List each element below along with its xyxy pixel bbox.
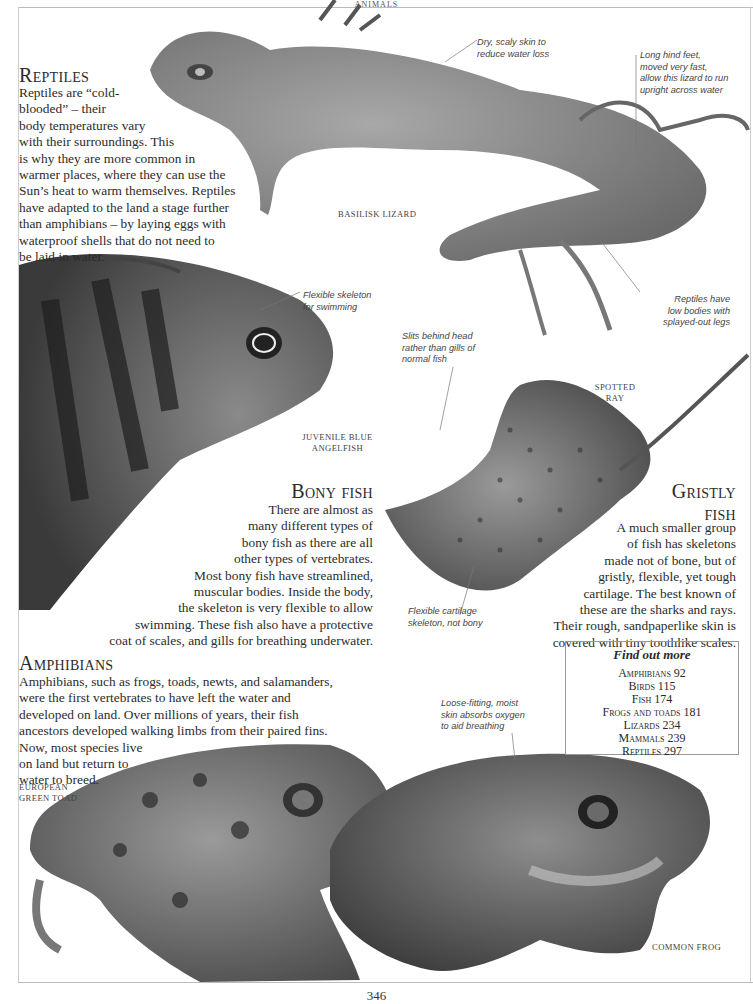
text-line: than amphibians – by laying eggs with: [19, 216, 279, 232]
caption-line: rather than gills of: [402, 343, 475, 355]
caption-line: reduce water loss: [477, 49, 549, 61]
caption-line: skeleton, not bony: [408, 618, 483, 630]
text-line: bony fish as there are all: [60, 535, 373, 551]
text-line: were the first vertebrates to have left …: [19, 690, 379, 706]
caption-line: moved very fast,: [640, 62, 728, 74]
text-line: is why they are more common in: [19, 151, 279, 167]
basilisk-lizard-label: BASILISK LIZARD: [338, 209, 416, 220]
text-line: made not of bone, but of: [480, 553, 736, 569]
label-line: ANGELFISH: [290, 443, 385, 454]
caption-cartilage: Flexible cartilage skeleton, not bony: [408, 606, 483, 629]
caption-scaly-skin: Dry, scaly skin to reduce water loss: [477, 37, 549, 60]
page-number: 346: [0, 988, 753, 1004]
caption-line: for swimming: [303, 302, 371, 314]
caption-line: Slits behind head: [402, 331, 475, 343]
caption-line: to aid breathing: [441, 721, 525, 733]
angelfish-label: JUVENILE BLUE ANGELFISH: [290, 432, 385, 454]
find-out-more-box: Find out more Amphibians 92 Birds 115 Fi…: [565, 641, 739, 755]
label-line: SPOTTED: [585, 382, 645, 393]
text-line: Sun’s heat to warm themselves. Reptiles: [19, 183, 279, 199]
amphibians-body: Amphibians, such as frogs, toads, newts,…: [19, 674, 379, 789]
bony-fish-body: There are almost as many different types…: [60, 502, 373, 650]
text-line: other types of vertebrates.: [60, 551, 373, 567]
text-line: waterproof shells that do not need to: [19, 233, 279, 249]
text-line: the skeleton is very flexible to allow: [60, 600, 373, 616]
caption-line: Long hind feet,: [640, 50, 728, 62]
bony-fish-heading: Bony fish: [200, 480, 373, 502]
text-line: coat of scales, and gills for breathing …: [60, 633, 373, 649]
caption-line: Flexible skeleton: [303, 290, 371, 302]
text-line: Most bony fish have streamlined,: [60, 568, 373, 584]
label-line: GREEN TOAD: [19, 793, 77, 804]
caption-line: skin absorbs oxygen: [441, 710, 525, 722]
text-line: Amphibians, such as frogs, toads, newts,…: [19, 674, 379, 690]
caption-slits: Slits behind head rather than gills of n…: [402, 331, 475, 366]
label-line: RAY: [585, 393, 645, 404]
gristly-fish-body: A much smaller group of fish has skeleto…: [480, 520, 736, 651]
text-line: ancestors developed walking limbs from t…: [19, 723, 379, 739]
caption-line: upright across water: [640, 85, 728, 97]
european-green-toad-label: EUROPEAN GREEN TOAD: [19, 782, 77, 804]
text-line: with their surroundings. This: [19, 134, 279, 150]
amphibians-heading: Amphibians: [19, 652, 113, 674]
text-line: warmer places, where they can use the: [19, 167, 279, 183]
text-line: swimming. These fish also have a protect…: [60, 617, 373, 633]
caption-line: Reptiles have: [620, 294, 730, 306]
reptiles-heading: Reptiles: [19, 64, 89, 86]
text-line: on land but return to: [19, 756, 379, 772]
common-frog-image: [330, 754, 710, 971]
caption-line: normal fish: [402, 354, 475, 366]
find-out-more-title: Find out more: [566, 647, 738, 663]
text-line: A much smaller group: [480, 520, 736, 536]
text-line: Their rough, sandpaperlike skin is: [480, 618, 736, 634]
label-line: EUROPEAN: [19, 782, 77, 793]
caption-splayed-legs: Reptiles have low bodies with splayed-ou…: [620, 294, 730, 329]
caption-line: Flexible cartilage: [408, 606, 483, 618]
text-line: have adapted to the land a stage further: [19, 200, 279, 216]
caption-line: allow this lizard to run: [640, 73, 728, 85]
caption-line: Dry, scaly skin to: [477, 37, 549, 49]
text-line: these are the sharks and rays.: [480, 602, 736, 618]
caption-hind-feet: Long hind feet, moved very fast, allow t…: [640, 50, 728, 96]
spotted-ray-label: SPOTTED RAY: [585, 382, 645, 404]
text-line: be laid in water.: [19, 249, 279, 265]
caption-moist-skin: Loose-fitting, moist skin absorbs oxygen…: [441, 698, 525, 733]
text-line: many different types of: [60, 518, 373, 534]
caption-line: splayed-out legs: [620, 317, 730, 329]
heading-line: Gristly: [600, 480, 736, 502]
caption-flexible-skeleton: Flexible skeleton for swimming: [303, 290, 371, 313]
common-frog-label: COMMON FROG: [652, 942, 721, 953]
text-line: body temperatures vary: [19, 118, 279, 134]
text-line: There are almost as: [60, 502, 373, 518]
text-line: Reptiles are “cold-: [19, 85, 279, 101]
leader-line-slits: [440, 367, 453, 430]
gristly-fish-heading: Gristly fish: [600, 480, 736, 524]
leader-line-legs: [600, 240, 640, 292]
caption-line: Loose-fitting, moist: [441, 698, 525, 710]
text-line: gristly, flexible, yet tough: [480, 569, 736, 585]
text-line: developed on land. Over millions of year…: [19, 707, 379, 723]
text-line: cartilage. The best known of: [480, 586, 736, 602]
text-line: blooded” – their: [19, 101, 279, 117]
text-line: of fish has skeletons: [480, 536, 736, 552]
label-line: JUVENILE BLUE: [290, 432, 385, 443]
text-line: Now, most species live: [19, 740, 379, 756]
text-line: muscular bodies. Inside the body,: [60, 584, 373, 600]
caption-line: low bodies with: [620, 306, 730, 318]
cross-reference-link[interactable]: Reptiles 297: [566, 745, 738, 758]
reptiles-body: Reptiles are “cold- blooded” – their bod…: [19, 85, 279, 265]
leader-line-skin: [445, 40, 477, 62]
